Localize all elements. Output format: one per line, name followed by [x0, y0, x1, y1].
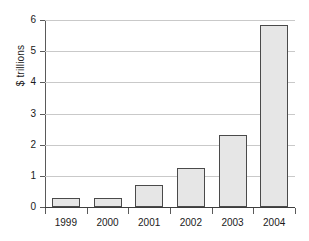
gridline [45, 82, 295, 83]
gridline [45, 20, 295, 21]
y-tick-label: 0 [8, 202, 36, 212]
plot-area [45, 20, 295, 207]
bar [260, 25, 288, 207]
gridline [45, 145, 295, 146]
x-tick-mark [253, 208, 254, 214]
x-tick-mark [170, 208, 171, 214]
x-tick-mark [45, 208, 46, 214]
x-tick-label: 2000 [87, 217, 129, 228]
gridline [45, 114, 295, 115]
y-tick-label: 6 [8, 15, 36, 25]
bar-chart: $ trillions 0123456 19992000200120022003… [0, 0, 309, 241]
x-tick-mark [87, 208, 88, 214]
x-tick-label: 2002 [170, 217, 212, 228]
bar [219, 135, 247, 207]
y-tick-label: 1 [8, 171, 36, 181]
x-tick-label: 1999 [45, 217, 87, 228]
x-tick-mark [212, 208, 213, 214]
x-tick-label: 2004 [253, 217, 295, 228]
bar [94, 198, 122, 207]
bar [177, 168, 205, 207]
y-tick-label: 4 [8, 77, 36, 87]
y-tick-label: 5 [8, 46, 36, 56]
bar [52, 198, 80, 207]
x-tick-mark [128, 208, 129, 214]
x-tick-label: 2003 [212, 217, 254, 228]
gridline [45, 51, 295, 52]
y-tick-label: 3 [8, 109, 36, 119]
y-tick-label: 2 [8, 140, 36, 150]
x-tick-label: 2001 [128, 217, 170, 228]
x-tick-mark [295, 208, 296, 214]
bar [135, 185, 163, 207]
gridline [45, 176, 295, 177]
